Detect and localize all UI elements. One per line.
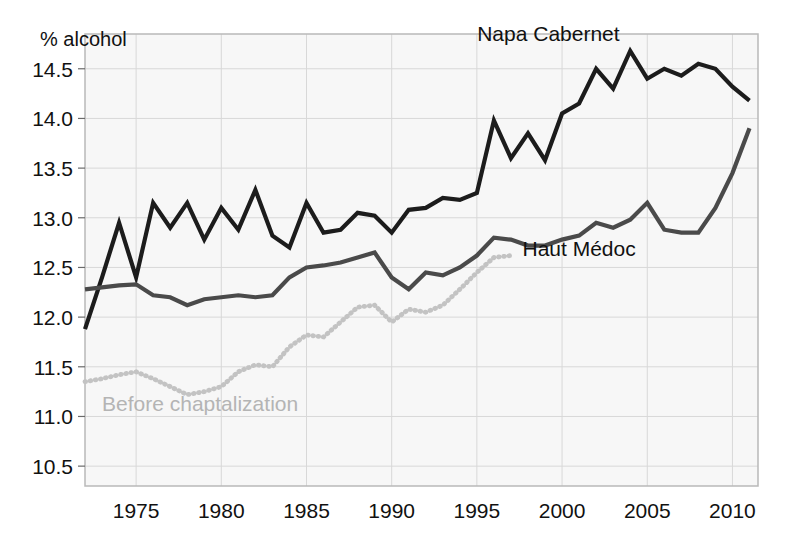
x-tick-label: 2010	[709, 499, 756, 522]
y-tick-label: 11.5	[34, 356, 73, 379]
series-label-0: Napa Cabernet	[477, 22, 620, 45]
x-tick-label: 2005	[624, 499, 671, 522]
x-tick-label: 1980	[198, 499, 245, 522]
y-axis-title: % alcohol	[40, 28, 127, 50]
y-tick-label: 13.5	[32, 157, 73, 180]
x-tick-label: 1975	[113, 499, 160, 522]
y-axis-title-text: % alcohol	[40, 28, 127, 50]
series-label-1: Haut Médoc	[522, 237, 635, 260]
chart-canvas: 10.511.011.512.012.513.013.514.014.5 197…	[0, 0, 793, 554]
plot-area-background	[85, 34, 758, 486]
y-tick-label: 14.0	[32, 107, 73, 130]
x-tick-label: 1995	[454, 499, 501, 522]
y-tick-label: 12.0	[32, 306, 73, 329]
y-tick-label: 12.5	[32, 256, 73, 279]
x-tick-label: 1985	[283, 499, 330, 522]
y-tick-label: 13.0	[32, 207, 73, 230]
y-tick-label: 10.5	[32, 455, 73, 478]
alcohol-trend-chart: 10.511.011.512.012.513.013.514.014.5 197…	[0, 0, 793, 554]
series-label-2: Before chaptalization	[102, 392, 298, 415]
y-tick-label: 11.0	[34, 405, 73, 428]
y-tick-label: 14.5	[32, 58, 73, 81]
x-tick-label: 1990	[368, 499, 415, 522]
x-tick-label: 2000	[539, 499, 586, 522]
